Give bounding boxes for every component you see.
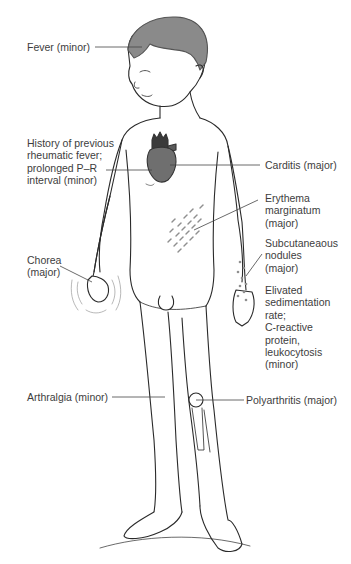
child-figure-illustration	[0, 0, 351, 564]
label-chorea: Chorea (major)	[27, 254, 61, 279]
heart	[147, 132, 176, 182]
label-arthralgia: Arthralgia (minor)	[27, 391, 108, 403]
label-carditis: Carditis (major)	[265, 159, 337, 171]
label-fever: Fever (minor)	[27, 41, 90, 53]
head	[128, 17, 207, 118]
leader-line-subcutaneous	[246, 254, 262, 276]
legs	[100, 302, 250, 551]
leader-line-chorea	[60, 266, 92, 282]
label-elevated-sedimentation: Elivated sedimentation rate; C-reactive …	[265, 284, 330, 371]
label-polyarthritis: Polyarthritis (major)	[246, 394, 337, 406]
label-history: History of previous rheumatic fever; pro…	[27, 137, 114, 187]
label-subcutaneous: Subcutaneaous nodules (major)	[265, 237, 338, 274]
label-erythema: Erythema marginatum (major)	[265, 192, 320, 229]
